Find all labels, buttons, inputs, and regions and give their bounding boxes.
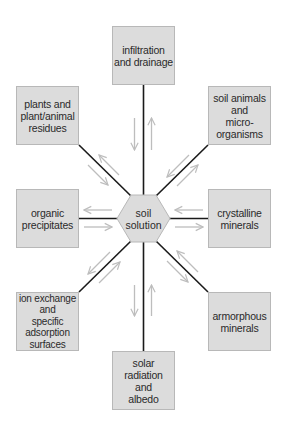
node-soil-animals: soil animals and micro- organisms [208,86,271,145]
center-label: soil solution [117,195,170,242]
connector-lower-left [79,241,131,292]
node-ion-exchange: ion exchange and specific adsorption sur… [16,292,79,351]
arrow-up-right-icon [177,165,198,186]
arrow-up-left-icon [99,155,119,175]
connector-upper-right [156,145,208,196]
node-organic-precipitates: organic precipitates [16,189,79,248]
arrow-up-left-icon [177,251,198,272]
node-solar-radiation: solar radiation and albedo [112,351,175,410]
arrow-down-right-icon [88,165,108,185]
node-infiltration-drainage: infiltration and drainage [112,26,175,85]
arrow-down-left-icon [88,252,110,274]
arrow-up-right-icon [99,262,120,283]
connector-upper-left [79,145,131,196]
node-plant-residues: plants and plant/animal residues [16,86,79,145]
arrow-down-right-icon [167,261,188,282]
soil-solution-diagram: soil solution infiltration and drainage … [0,0,285,421]
connector-lower-right [156,241,208,292]
node-armorphous-minerals: armorphous minerals [208,292,271,351]
node-crystalline-minerals: crystalline minerals [208,189,271,248]
